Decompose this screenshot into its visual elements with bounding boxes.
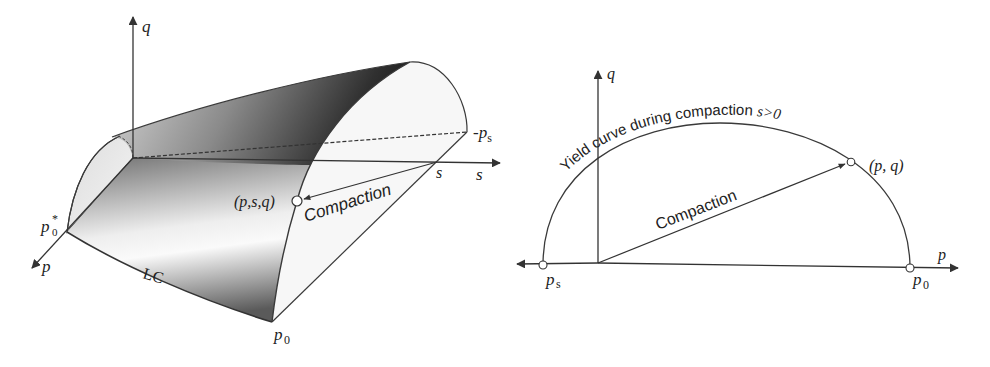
p0-star-label: p 0 * — [40, 212, 58, 238]
p-axis-label-3d: p — [41, 257, 51, 276]
svg-text:-ps: -ps — [473, 123, 492, 145]
q-axis-label-2d: q — [607, 65, 615, 83]
stress-point-3d-marker — [292, 196, 302, 206]
p-axis-2d — [517, 263, 598, 264]
p0-label-2d: p 0 — [912, 270, 929, 292]
yield-surface-diagram: q s p s -ps p 0 * p 0 LC (p,s,q) Compact… — [0, 0, 990, 367]
p-axis-label-2d: p — [937, 246, 946, 264]
s-axis-label-3d: s — [476, 165, 483, 184]
compaction-arrow-2d — [598, 164, 845, 263]
svg-text:0: 0 — [923, 278, 929, 292]
svg-text:p: p — [912, 270, 922, 289]
stress-point-2d-marker — [847, 158, 855, 166]
q-axis-label-3d: q — [142, 17, 151, 36]
stress-point-3d-label: (p,s,q) — [234, 193, 275, 211]
svg-text:s: s — [556, 277, 561, 291]
yield-curve-label: Yield curve during compaction s>0 — [556, 101, 782, 174]
stress-point-2d-label: (p, q) — [869, 157, 904, 175]
left-panel-3d-surface: q s p s -ps p 0 * p 0 LC (p,s,q) Compact… — [32, 17, 500, 347]
right-panel-pq-plane: q p p s p 0 (p, q) Compaction Yield curv… — [517, 65, 958, 292]
svg-text:p: p — [40, 217, 50, 236]
svg-text:*: * — [52, 212, 58, 226]
compaction-label-2d: Compaction — [653, 186, 739, 232]
p-axis-2d-positive — [598, 263, 958, 268]
neg-ps-label: -ps — [473, 123, 492, 145]
svg-text:0: 0 — [284, 333, 290, 347]
figure-canvas: q s p s -ps p 0 * p 0 LC (p,s,q) Compact… — [0, 0, 990, 367]
svg-text:p: p — [545, 270, 555, 289]
ps-point-marker — [539, 261, 547, 269]
p0-label-3d: p 0 — [273, 325, 290, 347]
svg-text:0: 0 — [52, 226, 58, 238]
svg-text:p: p — [273, 325, 283, 344]
ps-label-2d: p s — [545, 270, 561, 291]
s-tick-label-3d: s — [436, 164, 442, 181]
